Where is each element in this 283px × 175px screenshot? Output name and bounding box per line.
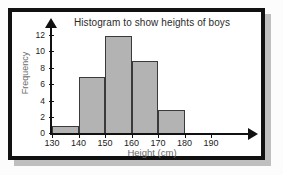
x-axis-label: Height (cm) <box>72 147 232 158</box>
bar-170-180 <box>158 110 185 135</box>
x-axis-arrow-icon <box>248 128 258 140</box>
bar-160-170 <box>132 61 159 135</box>
y-tick-2: 2 <box>16 117 45 118</box>
screenshot-root: Histogram to show heights of boys 12 10 … <box>0 0 283 175</box>
bar-140-150 <box>79 77 106 134</box>
bar-150-160 <box>105 36 132 134</box>
y-tick-label-2: 2 <box>23 112 45 122</box>
x-axis-line <box>50 133 251 135</box>
y-tick-0: 0 <box>16 133 45 134</box>
y-tick-label-0: 0 <box>23 128 45 138</box>
x-tick-label-130: 130 <box>37 138 67 148</box>
y-axis-label: Frequency <box>20 36 30 110</box>
histogram-bars <box>52 26 251 134</box>
figure-frame: Histogram to show heights of boys 12 10 … <box>8 8 265 160</box>
chart-plot-area: Histogram to show heights of boys 12 10 … <box>12 12 261 156</box>
